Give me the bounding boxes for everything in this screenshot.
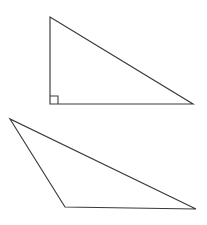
right-triangle-outline — [50, 17, 193, 104]
upper-triangle-group — [50, 17, 193, 104]
figure-canvas: Two Triangles Geometry Figure — [0, 0, 207, 225]
right-angle-square-icon — [50, 96, 58, 104]
obtuse-scalene-triangle-outline — [10, 119, 196, 209]
triangles-figure: Two Triangles Geometry Figure — [0, 0, 207, 225]
lower-triangle-group — [10, 119, 196, 209]
